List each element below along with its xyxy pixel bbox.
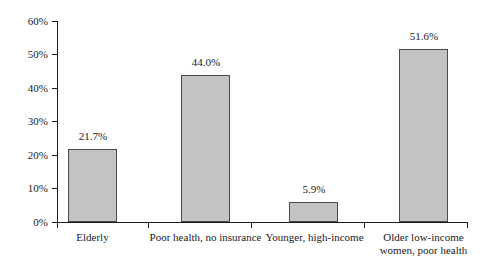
y-axis-tick-label: 20% (14, 150, 48, 161)
y-axis-tick-label: 0% (14, 217, 48, 228)
y-axis-tick-label: 30% (14, 116, 48, 127)
x-axis-tick (148, 223, 149, 228)
bar-older-low-income-women-poor-health (399, 49, 448, 222)
x-axis-category-label-line-2: women, poor health (368, 244, 479, 257)
x-axis-category-label-line-1: Older low-income (383, 231, 463, 243)
bar-value-label: 5.9% (279, 184, 349, 195)
x-axis-category-label: Younger, high-income (254, 231, 375, 244)
bar-younger-high-income (289, 202, 338, 222)
bar-value-label: 21.7% (58, 131, 128, 142)
x-axis-line (57, 222, 468, 223)
y-axis-tick (52, 88, 57, 89)
y-axis-tick-label: 60% (14, 16, 48, 27)
y-axis-tick-label: 40% (14, 83, 48, 94)
y-axis-line (57, 21, 58, 223)
x-axis-tick (364, 223, 365, 228)
y-axis-tick (52, 121, 57, 122)
x-axis-category-label: Older low-income women, poor health (368, 231, 479, 257)
bar-value-label: 51.6% (389, 31, 459, 42)
x-axis-tick (467, 223, 468, 228)
bar-chart: 0% 10% 20% 30% 40% 50% 60% 21.7% Elderly… (0, 0, 483, 265)
bar-value-label: 44.0% (171, 57, 241, 68)
y-axis-tick (52, 155, 57, 156)
y-axis-tick (52, 54, 57, 55)
bar-elderly (68, 149, 117, 222)
x-axis-tick (251, 223, 252, 228)
bar-poor-health-no-insurance (181, 75, 230, 222)
y-axis-tick (52, 21, 57, 22)
y-axis-tick (52, 188, 57, 189)
y-axis-tick-label: 50% (14, 49, 48, 60)
y-axis-tick-label: 10% (14, 183, 48, 194)
x-axis-category-label: Elderly (57, 231, 128, 244)
x-axis-tick (57, 223, 58, 228)
